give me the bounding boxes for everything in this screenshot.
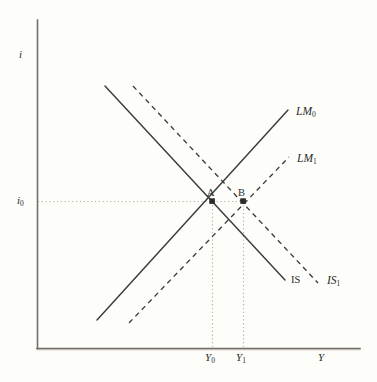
curve-label-is1: IS1 <box>327 275 340 287</box>
y-tick-sub: 0 <box>20 199 24 208</box>
curve-label-lm0-base: LM <box>296 105 312 117</box>
equilibrium-points-group <box>209 198 246 204</box>
point-label-b: B <box>238 188 245 199</box>
curve-label-lm0: LM0 <box>296 106 316 118</box>
lm0-curve <box>97 110 288 320</box>
is-lm-figure: i Y i0 Y0 Y1 LM0 LM1 IS IS1 A B <box>0 0 377 382</box>
x-tick-label-y0: Y0 <box>205 352 215 363</box>
is-curve <box>105 86 285 280</box>
curve-label-lm1: LM1 <box>297 153 317 165</box>
curve-label-is1-base: IS <box>327 274 337 286</box>
point-marker-a <box>209 198 215 204</box>
curve-label-is1-sub: 1 <box>337 279 341 288</box>
x-tick-label-y1: Y1 <box>236 352 246 363</box>
plot-canvas <box>0 0 377 382</box>
curve-label-lm1-sub: 1 <box>313 157 317 166</box>
curve-label-is: IS <box>291 275 300 286</box>
y-axis-title: i <box>19 49 22 60</box>
guide-lines-group <box>38 202 245 349</box>
curves-group <box>97 86 318 323</box>
x-tick-sub-1: 1 <box>242 356 246 365</box>
curve-label-is-base: IS <box>291 274 300 285</box>
x-tick-sub-0: 0 <box>211 356 215 365</box>
x-axis-title: Y <box>318 352 324 363</box>
point-label-a: A <box>207 188 215 199</box>
point-marker-b <box>240 198 246 204</box>
curve-label-lm1-base: LM <box>297 152 313 164</box>
curve-label-lm0-sub: 0 <box>312 110 316 119</box>
is1-curve <box>133 86 318 283</box>
y-tick-label-i0: i0 <box>17 195 24 206</box>
axes-group <box>37 20 360 350</box>
lm1-curve <box>129 157 289 323</box>
